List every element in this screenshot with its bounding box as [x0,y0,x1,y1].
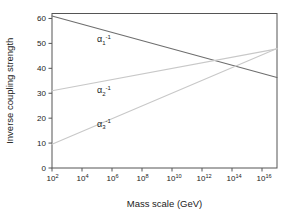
line-alpha-2-inverse [52,49,277,91]
y-tick-label-0: 0 [42,164,47,173]
x-axis-title: Mass scale (GeV) [127,198,203,209]
label-alpha-3-inverse: α3-1 [97,118,112,130]
y-tick-label-60: 60 [37,14,46,23]
y-tick-label-40: 40 [37,64,46,73]
x-axis-tick-labels: 1021041061081010101210141016 [47,173,272,183]
y-tick-label-50: 50 [37,39,46,48]
y-tick-label-30: 30 [37,89,46,98]
y-axis-ticks [49,18,53,168]
line-alpha-1-inverse [52,16,277,78]
y-tick-label-10: 10 [37,139,46,148]
x-tick-label-1e10: 1010 [167,173,182,183]
x-tick-label-1e2: 102 [47,173,59,183]
x-tick-label-1e4: 104 [77,173,89,183]
y-axis-tick-labels: 0102030405060 [37,14,46,173]
x-tick-label-1e6: 106 [107,173,119,183]
label-alpha-2-inverse: α2-1 [97,85,112,97]
x-tick-label-1e16: 1016 [257,173,272,183]
x-tick-label-1e14: 1014 [227,173,242,183]
x-axis-ticks [52,168,262,172]
label-alpha-1-inverse: α1-1 [97,34,112,46]
y-axis-title: Inverse coupling strength [4,38,15,144]
y-tick-label-20: 20 [37,114,46,123]
figure-container: 0102030405060 10210410610810101012101410… [0,0,290,217]
x-tick-label-1e12: 1012 [197,173,212,183]
coupling-unification-chart: 0102030405060 10210410610810101012101410… [0,0,290,217]
line-alpha-3-inverse [52,48,277,144]
x-tick-label-1e8: 108 [137,173,149,183]
plot-frame [52,14,277,169]
series-lines [52,16,277,144]
